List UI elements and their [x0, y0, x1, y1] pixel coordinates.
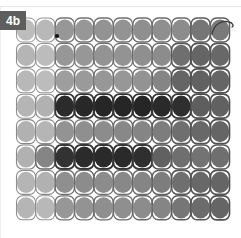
cell-core: [56, 70, 75, 91]
cell-core: [75, 197, 94, 218]
cell-core: [114, 197, 133, 218]
cell-core: [211, 172, 230, 193]
cell-core: [75, 172, 94, 193]
cell-core: [172, 96, 191, 117]
cell-core: [56, 121, 75, 142]
cell-core: [56, 45, 75, 66]
cell-core: [75, 70, 94, 91]
cell-core: [211, 45, 230, 66]
cell-core: [94, 19, 113, 40]
cell-core: [17, 172, 36, 193]
cell-core: [75, 96, 94, 117]
cell-core: [191, 197, 210, 218]
cell-core: [94, 70, 113, 91]
cell-core: [36, 121, 55, 142]
cell-core: [17, 197, 36, 218]
cells-layer: [17, 18, 230, 220]
cell-core: [153, 121, 172, 142]
figure-panel: 4b: [0, 0, 241, 238]
cell-core: [133, 121, 152, 142]
panel-label-4b: 4b: [0, 11, 26, 30]
cell-core: [172, 146, 191, 167]
cell-core: [17, 70, 36, 91]
cell-core: [75, 121, 94, 142]
cell-core: [56, 172, 75, 193]
cell-core: [133, 146, 152, 167]
cell-core: [133, 172, 152, 193]
cell-core: [153, 19, 172, 40]
cell-core: [211, 197, 230, 218]
cell-core: [36, 70, 55, 91]
cell-core: [114, 146, 133, 167]
cell-core: [172, 172, 191, 193]
cell-core: [114, 172, 133, 193]
cell-core: [172, 19, 191, 40]
cell-core: [191, 146, 210, 167]
cell-core: [114, 96, 133, 117]
cell-core: [191, 172, 210, 193]
cell-core: [211, 146, 230, 167]
cell-core: [114, 19, 133, 40]
cell-core: [94, 121, 113, 142]
cell-core: [153, 96, 172, 117]
cell-core: [211, 70, 230, 91]
cell-core: [94, 96, 113, 117]
cell-core: [36, 45, 55, 66]
cell-core: [191, 70, 210, 91]
cell-core: [114, 45, 133, 66]
cell-core: [17, 146, 36, 167]
cell-core: [56, 197, 75, 218]
cell-core: [94, 197, 113, 218]
cell-core: [191, 45, 210, 66]
cell-core: [36, 146, 55, 167]
cell-core: [172, 45, 191, 66]
cell-core: [153, 172, 172, 193]
cell-core: [133, 96, 152, 117]
cell-core: [172, 197, 191, 218]
cell-core: [191, 19, 210, 40]
lattice-grid: [0, 0, 241, 238]
cell-core: [36, 172, 55, 193]
cell-core: [153, 197, 172, 218]
cell-core: [191, 96, 210, 117]
cell-core: [36, 19, 55, 40]
cell-core: [36, 197, 55, 218]
cell-core: [75, 146, 94, 167]
cell-core: [17, 121, 36, 142]
cell-core: [153, 70, 172, 91]
cell-core: [133, 19, 152, 40]
cell-core: [75, 19, 94, 40]
cell-core: [94, 172, 113, 193]
cell-core: [17, 96, 36, 117]
cell-core: [153, 45, 172, 66]
cell-core: [114, 121, 133, 142]
cell-core: [56, 96, 75, 117]
lattice-svg: [0, 0, 241, 238]
cell-core: [94, 45, 113, 66]
cell-core: [211, 121, 230, 142]
cell-core: [211, 96, 230, 117]
cell-core: [133, 45, 152, 66]
cell-core: [114, 70, 133, 91]
cell-core: [94, 146, 113, 167]
cell-core: [56, 146, 75, 167]
cell-core: [133, 70, 152, 91]
cell-core: [17, 45, 36, 66]
cell-core: [172, 70, 191, 91]
cell-core: [153, 146, 172, 167]
cell-core: [75, 45, 94, 66]
cell-core: [172, 121, 191, 142]
cell-core: [133, 197, 152, 218]
cell-core: [36, 96, 55, 117]
marker-dot: [55, 34, 59, 38]
cell-core: [191, 121, 210, 142]
